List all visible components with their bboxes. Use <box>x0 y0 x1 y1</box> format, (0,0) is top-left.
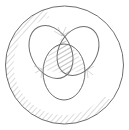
intersection-hatching-lower <box>43 38 86 73</box>
venn-sketch <box>0 0 129 130</box>
diagram-canvas <box>0 0 129 130</box>
